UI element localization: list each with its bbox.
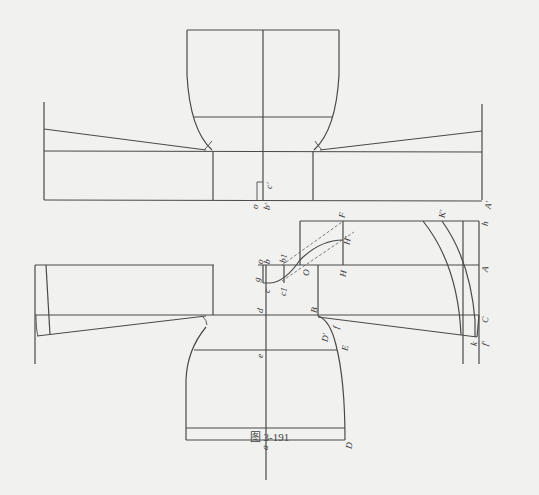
label-g: g [252, 276, 263, 283]
label-H: H [337, 269, 348, 279]
label-A: A [479, 265, 490, 274]
label-b: b [262, 258, 273, 265]
label-C: C [480, 315, 491, 324]
label-b1: b1 [278, 253, 289, 264]
label-K-prime: K' [436, 208, 448, 220]
label-e: e [255, 353, 266, 359]
label-c: c [262, 288, 273, 294]
label-F: F [336, 211, 347, 220]
pattern-diagram: o b' c' A' [0, 0, 539, 495]
figure-caption: 图 3-191 [0, 428, 539, 444]
label-H-prime: H' [341, 235, 353, 247]
label-d: d [255, 307, 266, 314]
label-f: f [331, 324, 342, 330]
label-b-prime: b' [262, 202, 273, 211]
label-c-prime: c' [264, 181, 275, 190]
label-A-prime: A' [482, 200, 493, 211]
label-D-prime: D' [319, 332, 331, 344]
label-c1: c1 [278, 287, 289, 297]
top-pattern-piece [44, 30, 482, 201]
label-f-prime: f' [480, 339, 491, 346]
top-labels: o b' c' A' [250, 181, 494, 211]
label-h: h [480, 220, 491, 227]
label-a: a [260, 444, 271, 451]
label-o-top: o [250, 203, 261, 210]
label-k: k [469, 340, 480, 347]
label-O: O [301, 268, 312, 277]
label-E: E [339, 344, 350, 353]
bottom-labels: g o b b1 c c1 O F H' H d B f D' E e a D … [252, 208, 491, 451]
